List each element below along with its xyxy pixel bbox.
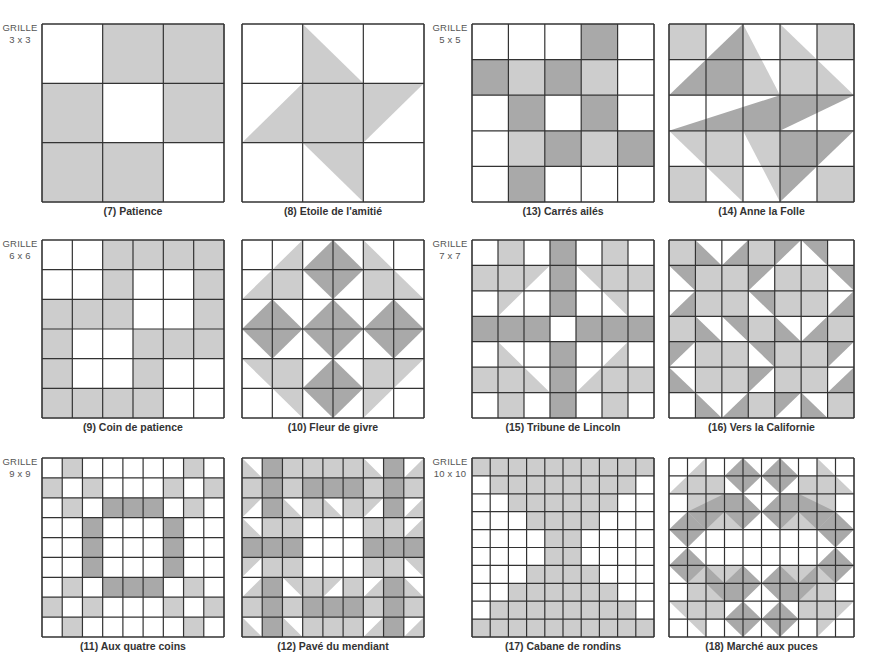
grid-cell: [602, 240, 629, 266]
grid-cell: [42, 270, 73, 300]
grid-cell: [343, 498, 364, 518]
grid-cell: [103, 388, 134, 418]
grid-cell: [688, 583, 707, 601]
grid-cell: [42, 359, 73, 389]
pattern-grid: [472, 24, 654, 202]
grid-cell: [103, 240, 134, 270]
grid-cell: [799, 619, 818, 637]
grid-cell: [303, 577, 324, 597]
grid-cell: [62, 518, 83, 538]
grid-cell: [262, 597, 283, 617]
grid-cell: [669, 24, 707, 60]
grid-cell: [262, 538, 283, 558]
grid-cell: [72, 299, 103, 329]
grid-cell: [695, 367, 722, 393]
grid-cell: [490, 565, 509, 583]
grid-cell: [394, 388, 425, 418]
grid-cell: [343, 518, 364, 538]
grid-cell: [508, 512, 527, 530]
grid-cell: [242, 24, 303, 84]
grid-cell: [323, 617, 344, 637]
quilt-pattern-p18: [669, 458, 854, 637]
grid-cell: [262, 518, 283, 538]
grid-cell: [184, 498, 205, 518]
grid-cell: [103, 83, 164, 143]
grid-cell: [82, 478, 103, 498]
grid-cell: [163, 299, 194, 329]
grid-cell: [576, 342, 603, 368]
grid-cell: [628, 240, 655, 266]
grid-cell: [123, 577, 144, 597]
grid-cell: [581, 494, 600, 512]
grid-cell: [545, 583, 564, 601]
grid-cell: [363, 478, 384, 498]
grid-cell: [581, 60, 618, 96]
grid-cell: [490, 458, 509, 476]
grid-cell: [576, 393, 603, 419]
grid-cell: [550, 367, 577, 393]
grid-cell: [636, 476, 655, 494]
grid-cell: [143, 597, 164, 617]
grid-cell: [472, 601, 491, 619]
grid-cell: [527, 476, 546, 494]
pattern-caption: (14) Anne la Folle: [669, 205, 854, 217]
grid-cell: [669, 240, 696, 266]
grid-cell: [636, 548, 655, 566]
grid-cell: [133, 388, 164, 418]
grid-cell: [242, 240, 273, 270]
grid-cell: [103, 538, 124, 558]
pattern-grid: [472, 458, 654, 637]
grid-cell: [602, 265, 629, 291]
pattern-caption: (18) Marché aux puces: [669, 640, 854, 652]
grid-cell: [706, 548, 725, 566]
grid-cell: [563, 583, 582, 601]
pattern-grid: [472, 240, 654, 418]
grid-cell: [194, 329, 225, 359]
grid-cell: [204, 478, 225, 498]
grid-cell: [527, 565, 546, 583]
grid-cell: [123, 478, 144, 498]
grid-cell: [82, 458, 103, 478]
grid-cell: [706, 458, 725, 476]
grid-cell: [133, 299, 164, 329]
grid-cell: [303, 617, 324, 637]
grid-cell: [669, 619, 688, 637]
grid-cell: [563, 619, 582, 637]
grid-cell: [576, 240, 603, 266]
grid-label-size: 6 x 6: [0, 250, 40, 262]
grid-cell: [103, 577, 124, 597]
grid-cell: [394, 240, 425, 270]
grid-cell: [490, 583, 509, 601]
grid-cell: [498, 240, 525, 266]
grid-cell: [103, 143, 164, 203]
grid-cell: [42, 240, 73, 270]
grid-cell: [490, 494, 509, 512]
grid-cell: [42, 24, 103, 84]
grid-cell: [472, 458, 491, 476]
grid-label-word: GRILLE: [0, 22, 40, 34]
grid-cell: [103, 617, 124, 637]
grid-size-label: GRILLE5 x 5: [430, 22, 470, 46]
grid-cell: [628, 265, 655, 291]
grid-cell: [602, 367, 629, 393]
grid-cell: [343, 617, 364, 637]
grid-cell: [748, 240, 775, 266]
grid-cell: [363, 518, 384, 538]
grid-cell: [163, 240, 194, 270]
grid-cell: [545, 60, 582, 96]
grid-cell: [780, 548, 799, 566]
grid-cell: [262, 498, 283, 518]
grid-cell: [42, 518, 63, 538]
grid-cell: [133, 329, 164, 359]
grid-cell: [618, 619, 637, 637]
grid-cell: [242, 538, 263, 558]
grid-cell: [599, 476, 618, 494]
pattern-caption: (17) Cabane de rondins: [472, 640, 654, 652]
grid-cell: [472, 583, 491, 601]
grid-cell: [163, 388, 194, 418]
quilt-pattern-p14: [669, 24, 854, 202]
grid-cell: [498, 393, 525, 419]
grid-cell: [282, 518, 303, 538]
grid-cell: [636, 565, 655, 583]
pattern-caption: (7) Patience: [42, 205, 224, 217]
